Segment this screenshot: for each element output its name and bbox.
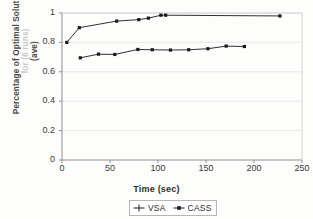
series-cass xyxy=(65,14,281,44)
data-point-marker xyxy=(151,48,154,51)
x-axis-label: Time (sec) xyxy=(0,184,313,194)
data-point-marker xyxy=(187,48,190,51)
data-point-marker xyxy=(147,17,150,20)
plot-frame xyxy=(59,13,302,163)
data-point-marker xyxy=(164,14,167,17)
data-point-marker xyxy=(97,53,100,56)
data-point-marker xyxy=(65,41,68,44)
data-point-marker xyxy=(159,14,162,17)
data-point-marker xyxy=(169,48,172,51)
legend-label: VSA xyxy=(148,203,166,213)
data-point-marker xyxy=(79,56,82,59)
data-point-marker xyxy=(115,19,118,22)
chart-legend: VSACASS xyxy=(129,200,217,216)
series-line xyxy=(80,46,244,58)
data-point-marker xyxy=(243,45,246,48)
data-point-marker xyxy=(78,26,81,29)
data-point-marker xyxy=(136,48,139,51)
legend-label: CASS xyxy=(188,203,212,213)
data-point-marker xyxy=(113,53,116,56)
series-line xyxy=(67,15,280,42)
data-series-layer xyxy=(65,14,281,60)
series-vsa xyxy=(79,44,246,59)
data-point-marker xyxy=(137,18,140,21)
data-point-marker xyxy=(225,44,228,47)
chart-figure: Percentage of Optimal Solution for (6 ru… xyxy=(0,0,313,219)
legend-entry-cass: CASS xyxy=(173,203,212,213)
square-marker-icon xyxy=(173,203,185,213)
plus-marker-icon xyxy=(133,203,145,213)
data-point-marker xyxy=(206,47,209,50)
gridlines xyxy=(62,13,302,131)
legend-entry-vsa: VSA xyxy=(133,203,166,213)
data-point-marker xyxy=(278,14,281,17)
